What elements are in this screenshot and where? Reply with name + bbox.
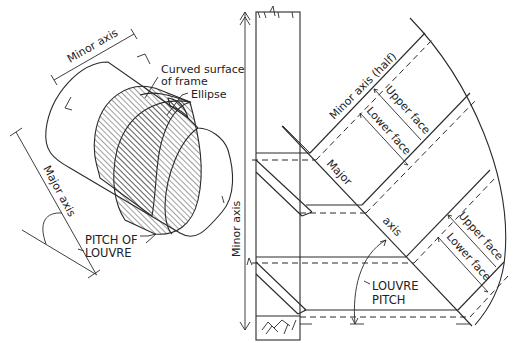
strip-1-dash (316, 40, 432, 160)
major-axis-label: Major axis (40, 163, 78, 219)
elevation-section: Minor axis (230, 6, 508, 340)
louvre-pitch-label-1: LOUVRE (372, 279, 419, 293)
louvre-blade-lower (256, 262, 306, 314)
cylinder-illustration: Minor axis Major axis Curved surface of … (10, 26, 245, 278)
louvre-pitch-leader (364, 281, 370, 284)
minor-axis-vertical-label: Minor axis (230, 200, 243, 257)
louvre-pitch-label-2: PITCH (372, 293, 405, 307)
minor-axis-vertical-dimension: Minor axis (230, 12, 252, 330)
ellipse-label: Ellipse (191, 88, 227, 101)
outer-arc (410, 18, 506, 325)
pitch-angle-arc (43, 213, 62, 244)
sill-block (256, 316, 300, 334)
axis-label: axis (380, 214, 405, 239)
louvre-geometry-diagram: Minor axis Major axis Curved surface of … (0, 0, 514, 343)
corner-mark-left (65, 97, 72, 110)
pitch-of-louvre-label-2: LOUVRE (85, 246, 132, 260)
curved-surface-label-2: of frame (161, 75, 208, 88)
tick-mark (222, 196, 224, 203)
corner-mark-top (137, 54, 150, 64)
column-leader (283, 126, 310, 153)
louvre-blade-upper (256, 160, 312, 216)
minor-axis-label: Minor axis (65, 26, 120, 66)
strip-3-solid (406, 170, 490, 257)
pitch-of-louvre-label-1: PITCH OF (85, 233, 138, 247)
strip-1-solid (310, 33, 425, 153)
strip-4-dash (470, 276, 508, 317)
major-label: Major (324, 157, 355, 188)
minor-axis-dimension: Minor axis (51, 26, 137, 85)
pitch-arrow (78, 249, 84, 251)
pitch-callout-mark (140, 234, 156, 243)
frame-column (256, 12, 300, 340)
